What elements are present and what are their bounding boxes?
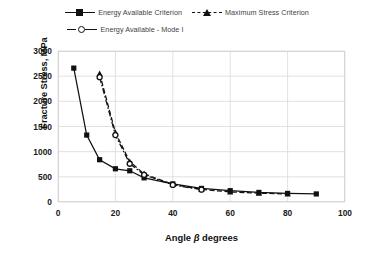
data-point-marker	[97, 75, 102, 80]
chart-container: Energy Available Criterion Maximum Stres…	[0, 0, 374, 258]
data-point-marker	[142, 172, 147, 177]
x-tick-label: 0	[43, 208, 73, 218]
data-point-marker	[71, 66, 76, 71]
x-tick-label: 80	[273, 208, 303, 218]
series-line-1	[100, 74, 288, 194]
x-tick-label: 20	[100, 208, 130, 218]
data-point-marker	[127, 168, 132, 173]
x-title-prefix: Angle	[165, 232, 194, 243]
y-tick-label: 500	[4, 172, 52, 182]
data-point-marker	[314, 191, 319, 196]
data-point-marker	[84, 132, 89, 137]
x-axis-title: Angle β degrees	[58, 232, 345, 243]
data-point-marker	[199, 187, 204, 192]
data-point-marker	[113, 166, 118, 171]
series-line-0	[74, 68, 317, 194]
chart-svg	[0, 0, 374, 258]
x-title-suffix: degrees	[199, 232, 238, 243]
data-point-marker	[97, 157, 102, 162]
x-tick-label: 100	[330, 208, 360, 218]
data-point-marker	[113, 133, 118, 138]
data-point-marker	[127, 161, 132, 166]
x-tick-label: 60	[215, 208, 245, 218]
y-axis-title: Fracture Stress, MPa	[39, 13, 49, 153]
data-point-marker	[170, 182, 175, 187]
x-tick-label: 40	[158, 208, 188, 218]
y-tick-label: 0	[4, 197, 52, 207]
